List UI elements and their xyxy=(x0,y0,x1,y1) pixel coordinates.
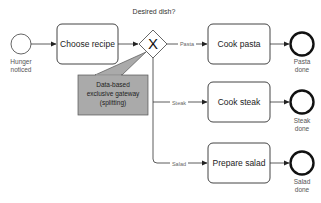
flow-gateway-to-salad xyxy=(153,58,207,163)
end-pasta-label-1: Pasta xyxy=(294,58,311,65)
start-event-label-2: noticed xyxy=(11,66,32,73)
task-cook-steak-label: Cook steak xyxy=(218,97,261,107)
end-salad-label-2: done xyxy=(295,186,310,193)
end-steak-label-1: Steak xyxy=(294,117,311,124)
task-prepare-salad[interactable]: Prepare salad xyxy=(208,143,270,183)
task-cook-steak[interactable]: Cook steak xyxy=(208,82,270,122)
start-event[interactable] xyxy=(11,34,31,54)
end-pasta-label-2: done xyxy=(295,66,310,73)
end-steak-label-2: done xyxy=(295,125,310,132)
flow-label-steak: Steak xyxy=(172,100,186,106)
gateway-question: Desired dish? xyxy=(133,8,176,15)
task-cook-pasta-label: Cook pasta xyxy=(218,39,261,49)
task-cook-pasta[interactable]: Cook pasta xyxy=(208,24,270,64)
annotation-line-1: Data-based xyxy=(96,81,130,88)
start-event-label-1: Hunger xyxy=(10,58,32,66)
end-event-steak[interactable] xyxy=(291,91,314,114)
annotation-line-3: (splitting) xyxy=(100,99,126,107)
end-salad-label-1: Salad xyxy=(294,178,311,185)
task-choose-recipe[interactable]: Choose recipe xyxy=(57,24,118,64)
end-event-salad[interactable] xyxy=(291,152,314,175)
flow-label-pasta: Pasta xyxy=(180,41,195,47)
bpmn-diagram: Hunger noticed Choose recipe Desired dis… xyxy=(0,0,321,203)
gateway-x-icon: X xyxy=(148,35,158,52)
annotation-line-2: exclusive gateway xyxy=(87,90,140,98)
flow-label-salad: Salad xyxy=(172,161,186,167)
end-event-pasta[interactable] xyxy=(291,33,314,56)
task-prepare-salad-label: Prepare salad xyxy=(213,158,266,168)
task-choose-recipe-label: Choose recipe xyxy=(60,39,115,49)
